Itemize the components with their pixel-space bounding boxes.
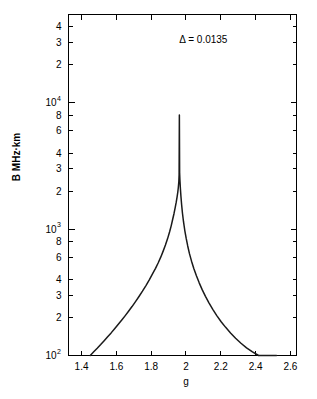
x-tick-label-1.6: 1.6: [109, 361, 123, 372]
y-tick-label-100: 10: [45, 350, 57, 361]
x-axis-title: g: [183, 376, 189, 387]
resonance-curve: [90, 115, 276, 355]
y-tick-exponent-10000: 4: [57, 95, 61, 102]
x-tick-label-1.8: 1.8: [144, 361, 158, 372]
y-tick-label-1000: 10: [45, 224, 57, 235]
y-axis-title: B MHz·km: [11, 133, 22, 181]
y-axis-tick-labels: 1022346810323468104234: [45, 21, 62, 361]
plot-canvas: 1.41.61.822.22.42.6 10223468103234681042…: [0, 0, 317, 399]
x-tick-label-1.4: 1.4: [75, 361, 89, 372]
y-tick-label-20000: 2: [56, 59, 62, 70]
y-tick-label-600: 6: [56, 252, 62, 263]
y-tick-label-3000: 3: [56, 163, 62, 174]
y-tick-label-30000: 3: [56, 37, 62, 48]
x-tick-label-2.4: 2.4: [249, 361, 263, 372]
x-axis-tick-labels: 1.41.61.822.22.42.6: [75, 361, 298, 372]
delta-annotation: Δ = 0.0135: [179, 34, 228, 45]
y-tick-exponent-1000: 3: [57, 221, 61, 228]
y-tick-label-800: 8: [56, 236, 62, 247]
y-tick-label-4000: 4: [56, 148, 62, 159]
y-tick-label-8000: 8: [56, 110, 62, 121]
y-tick-label-2000: 2: [56, 186, 62, 197]
y-tick-label-200: 2: [56, 312, 62, 323]
x-tick-label-2.6: 2.6: [283, 361, 297, 372]
axis-titles: B MHz·kmg: [11, 133, 189, 387]
axes-frame-box: [69, 15, 297, 356]
y-tick-label-400: 4: [56, 274, 62, 285]
figure-root: 1.41.61.822.22.42.6 10223468103234681042…: [0, 0, 317, 399]
y-tick-label-10000: 10: [45, 97, 57, 108]
x-tick-label-2: 2: [183, 361, 189, 372]
x-axis-ticks: [82, 15, 291, 356]
axes-frame: [69, 15, 297, 356]
y-axis-ticks: [69, 27, 297, 356]
x-tick-label-2.2: 2.2: [214, 361, 228, 372]
y-tick-exponent-100: 2: [57, 348, 61, 355]
y-tick-label-40000: 4: [56, 21, 62, 32]
y-tick-label-6000: 6: [56, 125, 62, 136]
data-series-group: [90, 115, 276, 355]
chart-annotations: Δ = 0.0135: [179, 34, 228, 45]
y-tick-label-300: 3: [56, 290, 62, 301]
